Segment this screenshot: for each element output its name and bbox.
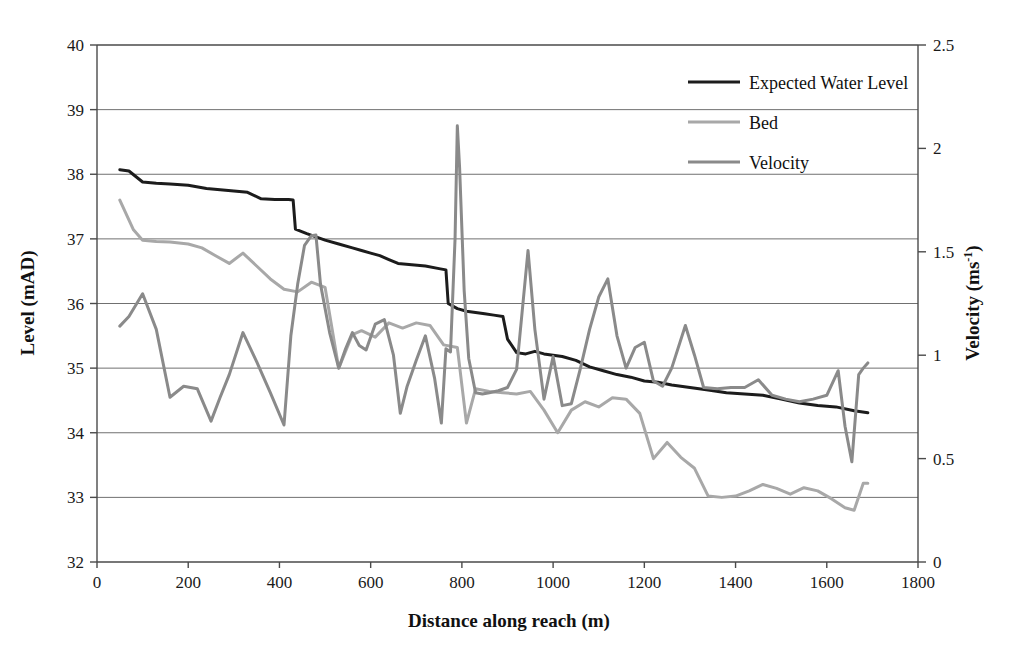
- y-tick-label: 37: [67, 230, 85, 249]
- y-axis-left-ticks: 323334353637383940: [67, 36, 97, 572]
- y-tick-label: 38: [67, 165, 84, 184]
- x-tick-label: 400: [267, 573, 293, 592]
- y-tick-label: 34: [67, 424, 85, 443]
- legend-label: Bed: [749, 113, 778, 133]
- y-axis-right-title-exponent: -1: [961, 252, 975, 262]
- legend-label: Expected Water Level: [749, 73, 908, 93]
- y-tick-label: 33: [67, 488, 84, 507]
- x-axis-ticks: 020040060080010001200140016001800: [93, 562, 935, 592]
- x-tick-label: 0: [93, 573, 102, 592]
- x-tick-label: 1200: [627, 573, 661, 592]
- series-line-velocity: [120, 126, 868, 462]
- y-axis-right-title-close: ): [962, 245, 984, 251]
- y2-tick-label: 2.5: [933, 36, 954, 55]
- y2-tick-label: 1.5: [933, 243, 954, 262]
- series-line-expected-water-level: [120, 170, 868, 413]
- y-tick-label: 32: [67, 553, 84, 572]
- line-chart: 020040060080010001200140016001800 323334…: [0, 0, 1013, 652]
- y-tick-label: 36: [67, 295, 84, 314]
- x-tick-label: 200: [175, 573, 201, 592]
- y-axis-right-title-base: Velocity (ms: [962, 262, 984, 361]
- x-tick-label: 1800: [901, 573, 935, 592]
- data-series-group: [120, 126, 868, 511]
- legend-label: Velocity: [749, 153, 809, 173]
- y-axis-right-ticks: 00.511.522.5: [918, 36, 954, 572]
- x-axis-title: Distance along reach (m): [408, 610, 610, 632]
- y2-tick-label: 0: [933, 553, 942, 572]
- y-tick-label: 39: [67, 101, 84, 120]
- x-tick-label: 1000: [536, 573, 570, 592]
- x-tick-label: 800: [449, 573, 475, 592]
- x-tick-label: 1400: [719, 573, 753, 592]
- y2-tick-label: 0.5: [933, 450, 954, 469]
- chart-page: 020040060080010001200140016001800 323334…: [0, 0, 1013, 652]
- y-tick-label: 35: [67, 359, 84, 378]
- y-axis-right-title: Velocity (ms-1): [961, 245, 984, 360]
- x-tick-label: 1600: [810, 573, 844, 592]
- series-line-bed: [120, 200, 868, 510]
- y2-tick-label: 1: [933, 346, 942, 365]
- y-tick-label: 40: [67, 36, 84, 55]
- y-axis-left-title: Level (mAD): [17, 251, 39, 356]
- x-tick-label: 600: [358, 573, 384, 592]
- chart-legend: Expected Water LevelBedVelocity: [688, 73, 908, 173]
- y2-tick-label: 2: [933, 139, 942, 158]
